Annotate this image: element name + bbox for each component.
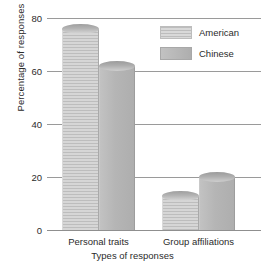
y-axis-tick-label: 40 bbox=[31, 119, 42, 130]
bar-cap bbox=[199, 172, 236, 182]
x-axis-title: Types of responses bbox=[0, 250, 265, 261]
bar-chinese-0 bbox=[99, 66, 136, 230]
bar-chart: Percentage of responses 020406080 Person… bbox=[0, 0, 265, 270]
y-axis-tick-label: 60 bbox=[31, 66, 42, 77]
legend-swatch-chinese bbox=[160, 47, 192, 60]
bar-american-0 bbox=[62, 29, 99, 230]
y-axis-tick-label: 20 bbox=[31, 172, 42, 183]
bar-cap bbox=[99, 61, 136, 71]
bar-chinese-1 bbox=[199, 177, 236, 230]
legend-swatch-american bbox=[160, 26, 192, 39]
legend-item-chinese: Chinese bbox=[160, 47, 239, 60]
legend-label-chinese: Chinese bbox=[199, 48, 234, 59]
x-axis-tick-label: Group affiliations bbox=[163, 236, 234, 247]
legend-item-american: American bbox=[160, 26, 239, 39]
y-axis-title: Percentage of responses bbox=[15, 0, 26, 138]
bar-cap bbox=[62, 24, 99, 34]
legend-label-american: American bbox=[199, 27, 239, 38]
y-axis-tick-label: 80 bbox=[31, 13, 42, 24]
y-axis-tick-label: 0 bbox=[37, 225, 42, 236]
gridline bbox=[47, 230, 261, 231]
gridline bbox=[47, 18, 261, 19]
chart-legend: American Chinese bbox=[160, 26, 239, 60]
x-axis-tick-label: Personal traits bbox=[68, 236, 129, 247]
bar-american-1 bbox=[162, 196, 199, 230]
bar-cap bbox=[162, 191, 199, 201]
